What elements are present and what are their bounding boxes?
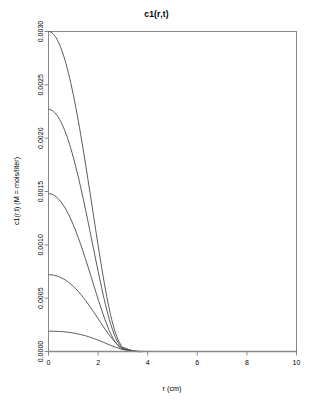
y-tick-label: 0.0015: [37, 181, 44, 203]
x-tick-label: 6: [195, 359, 199, 366]
data-series-line: [49, 32, 297, 352]
y-axis-tick-marks: [45, 32, 49, 352]
x-tick-label: 0: [47, 359, 51, 366]
plot-frame: [49, 32, 297, 352]
y-tick-label: 0.0030: [37, 21, 44, 43]
x-axis-title: r (cm): [163, 384, 182, 393]
y-tick-label: 0.0025: [37, 74, 44, 96]
data-series-line: [49, 194, 297, 352]
x-tick-label: 10: [293, 359, 301, 366]
y-axis-tick-labels: 0.00000.00050.00100.00150.00200.00250.00…: [37, 21, 44, 363]
x-tick-label: 8: [245, 359, 249, 366]
y-axis-title: c1(r,t) (M = mols/liter): [12, 157, 21, 225]
data-series-line: [49, 275, 297, 352]
x-tick-label: 4: [146, 359, 150, 366]
data-series-line: [49, 109, 297, 351]
line-chart-canvas: 0246810 0.00000.00050.00100.00150.00200.…: [0, 0, 313, 405]
y-tick-label: 0.0010: [37, 234, 44, 256]
x-axis-tick-labels: 0246810: [47, 359, 301, 366]
x-tick-label: 2: [96, 359, 100, 366]
chart-figure: c1(r,t) 0246810 0.00000.00050.00100.0015…: [0, 0, 313, 405]
data-series-line: [49, 331, 297, 351]
y-tick-label: 0.0000: [37, 341, 44, 363]
y-tick-label: 0.0020: [37, 127, 44, 149]
y-tick-label: 0.0005: [37, 287, 44, 309]
data-series-group: [49, 32, 297, 352]
